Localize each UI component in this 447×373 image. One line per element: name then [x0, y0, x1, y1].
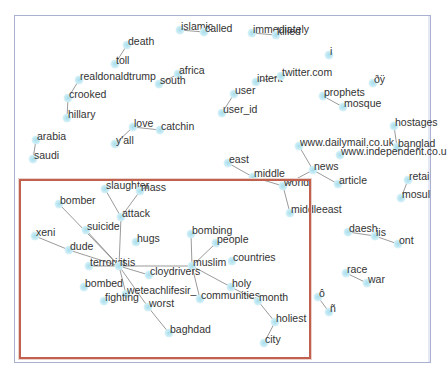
- node-label-oy: ðÿ: [374, 74, 385, 85]
- node-label-user_id: user_id: [223, 104, 257, 115]
- node-label-saudi: saudi: [34, 150, 59, 161]
- node-label-arabia: arabia: [37, 131, 66, 142]
- node-label-catchin: catchin: [161, 121, 194, 132]
- highlight-box: [19, 179, 311, 359]
- node-label-ont: ont: [399, 235, 414, 246]
- node-label-east: east: [229, 154, 249, 165]
- node-label-toll: toll: [116, 55, 129, 66]
- node-label-o_small: ô: [319, 288, 325, 299]
- node-label-independent: www.independent.co.u: [341, 146, 447, 157]
- node-label-killed: killed: [277, 26, 301, 37]
- node-label-crooked: crooked: [69, 89, 106, 100]
- node-label-middle: middle: [254, 168, 285, 179]
- node-label-twitter.com: twitter.com: [282, 67, 332, 78]
- node-label-retail: retai: [409, 171, 429, 182]
- node-label-race: race: [347, 264, 367, 275]
- node-label-news: news: [314, 161, 339, 172]
- node-label-hillary: hillary: [68, 109, 95, 120]
- node-label-called: called: [205, 23, 232, 34]
- node-label-death: death: [128, 36, 154, 47]
- node-label-war: war: [368, 274, 385, 285]
- node-label-article: article: [339, 175, 367, 186]
- node-label-n_tilde: ñ: [330, 303, 336, 314]
- node-label-i: i: [330, 46, 332, 57]
- node-label-realdonaldtrump: realdonaldtrump: [80, 71, 156, 82]
- node-label-iis: iis: [376, 227, 386, 238]
- node-label-mosque: mosque: [344, 98, 381, 109]
- node-label-hostages: hostages: [395, 117, 438, 128]
- node-label-mosul: mosul: [402, 189, 430, 200]
- node-label-love: love: [134, 118, 153, 129]
- node-label-south: south: [160, 75, 186, 86]
- node-label-yall: y'all: [116, 135, 134, 146]
- node-label-user: user: [235, 85, 255, 96]
